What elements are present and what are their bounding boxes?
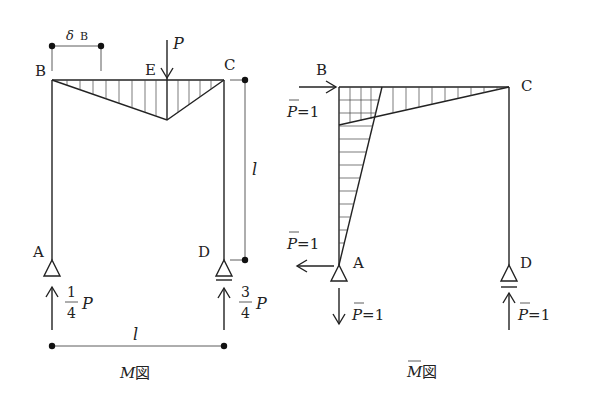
- roller-support-d-right: [501, 265, 517, 287]
- node-label-b-right: B: [316, 61, 327, 79]
- node-label-c-left: C: [224, 56, 235, 74]
- svg-text:4: 4: [67, 305, 76, 321]
- node-label-d-right: D: [520, 254, 532, 272]
- height-dimension: [230, 77, 248, 263]
- reaction-a-value: 1 4 P: [65, 284, 93, 321]
- m-diagram: P E B C δ B l A D: [32, 28, 267, 382]
- pin-support-a-left: [44, 260, 60, 276]
- svg-text:4: 4: [241, 305, 250, 321]
- m-bar-diagram: B C P=1 A D P=1 P: [286, 61, 550, 381]
- span-label: l: [133, 325, 138, 344]
- svg-text:P=1: P=1: [517, 306, 550, 324]
- frame-right: [339, 87, 509, 265]
- reaction-d-value: 3 4 P: [239, 284, 267, 321]
- unit-load-arrow-b: [299, 81, 336, 93]
- moment-diagram-beam-bar: [339, 87, 509, 125]
- structural-diagrams: P E B C δ B l A D: [0, 0, 590, 404]
- frame-left: [52, 80, 224, 260]
- reaction-arrow-a: [46, 287, 58, 330]
- caption-m-diagram: M図: [119, 364, 150, 382]
- reaction-arrow-a-horizontal: [297, 260, 334, 272]
- node-label-d-left: D: [198, 243, 210, 261]
- svg-text:P=1: P=1: [286, 235, 319, 253]
- svg-text:1: 1: [67, 284, 76, 300]
- node-label-e: E: [145, 61, 156, 79]
- svg-text:P: P: [255, 294, 267, 313]
- reaction-label-a-horizontal: P=1: [286, 232, 319, 253]
- load-label-p: P: [172, 34, 184, 53]
- svg-text:M図: M図: [406, 363, 437, 381]
- caption-m-bar-diagram: M図: [406, 361, 437, 381]
- reaction-arrow-d: [218, 288, 230, 330]
- reaction-label-d-vertical: P=1: [517, 303, 550, 324]
- unit-load-label-b: P=1: [286, 100, 319, 121]
- reaction-arrow-d-vertical: [503, 293, 515, 330]
- svg-text:P=1: P=1: [286, 103, 319, 121]
- svg-text:P=1: P=1: [351, 306, 384, 324]
- deflection-subscript: B: [80, 30, 88, 43]
- height-label: l: [252, 160, 257, 179]
- node-label-c-right: C: [521, 77, 532, 95]
- node-label-b-left: B: [35, 62, 46, 80]
- moment-diagram-beam: [52, 80, 224, 120]
- node-label-a-right: A: [352, 254, 364, 272]
- reaction-arrow-a-vertical: [333, 288, 345, 324]
- reaction-label-a-vertical: P=1: [351, 303, 384, 324]
- roller-support-d-left: [216, 260, 232, 280]
- pin-support-a-right: [331, 265, 347, 281]
- deflection-dimension: [49, 43, 104, 71]
- deflection-label: δ: [66, 28, 74, 43]
- svg-text:P: P: [81, 294, 93, 313]
- moment-diagram-column: [339, 87, 382, 265]
- svg-text:3: 3: [241, 284, 250, 300]
- node-label-a-left: A: [32, 243, 44, 261]
